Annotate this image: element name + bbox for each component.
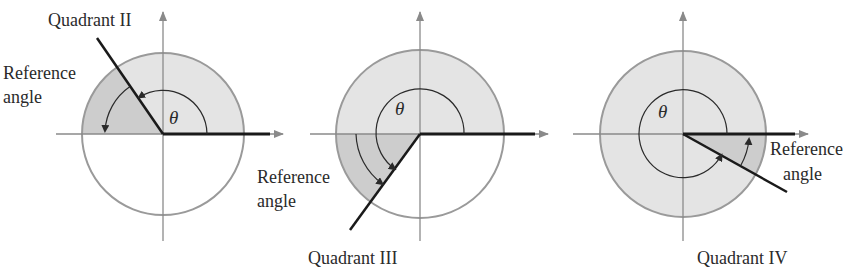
reference-label-line1: Reference: [770, 139, 843, 159]
reference-label-line2: angle: [783, 164, 822, 184]
figure-quadrant-iii: θ Reference angle Quadrant III: [257, 12, 548, 268]
reference-label-line1: Reference: [257, 167, 330, 187]
figure-quadrant-iv: θ Reference angle Quadrant IV: [573, 12, 843, 268]
quadrant-label: Quadrant III: [308, 248, 397, 268]
theta-symbol: θ: [169, 107, 178, 128]
theta-symbol: θ: [395, 98, 404, 119]
figure-quadrant-ii: θ Quadrant II Reference angle: [3, 10, 283, 241]
quadrant-label: Quadrant IV: [697, 248, 787, 268]
reference-angle-diagram: θ Quadrant II Reference angle θ Referenc…: [0, 0, 862, 270]
reference-label-line1: Reference: [3, 63, 76, 83]
theta-symbol: θ: [658, 101, 667, 122]
quadrant-label: Quadrant II: [48, 10, 131, 30]
reference-label-line2: angle: [257, 191, 296, 211]
reference-label-line2: angle: [3, 87, 42, 107]
